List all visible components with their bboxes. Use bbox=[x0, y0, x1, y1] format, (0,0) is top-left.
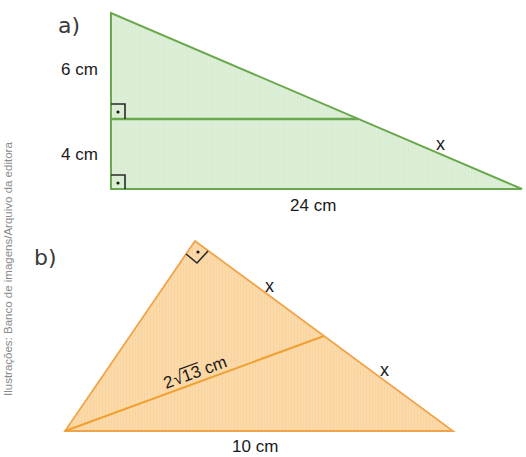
lower-leg-label: 4 cm bbox=[61, 145, 98, 164]
base-label: 24 cm bbox=[290, 196, 336, 215]
upper-leg-label: 6 cm bbox=[61, 60, 98, 79]
figure-a: a) 6 cm 4 cm 24 cm x bbox=[58, 13, 522, 215]
geometry-figure: Ilustrações: Banco de imagens/Arquivo da… bbox=[0, 0, 526, 457]
figure-b: b) x x 2√13 cm 10 cm bbox=[34, 241, 453, 456]
figure-a-label: a) bbox=[58, 13, 80, 38]
right-triangle-b bbox=[65, 241, 453, 431]
image-credit: Ilustrações: Banco de imagens/Arquivo da… bbox=[2, 142, 14, 396]
figure-b-label: b) bbox=[34, 245, 57, 270]
upper-side-label: x bbox=[265, 276, 274, 296]
lower-side-label: x bbox=[380, 360, 389, 380]
large-right-triangle bbox=[111, 13, 522, 189]
hypotenuse-label: x bbox=[436, 134, 445, 154]
base-label-b: 10 cm bbox=[232, 437, 278, 456]
